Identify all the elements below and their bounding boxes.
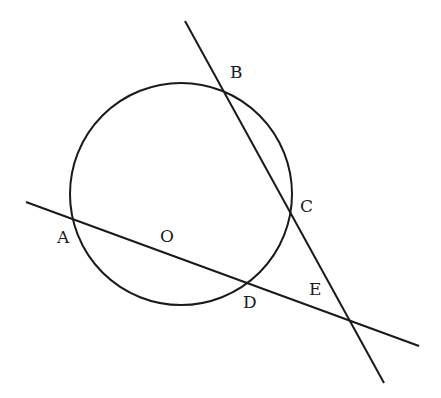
label-a: A	[57, 229, 69, 246]
label-d: D	[243, 294, 257, 311]
line-through-a-o-d	[26, 202, 419, 346]
label-o: O	[160, 228, 174, 245]
label-b: B	[230, 64, 243, 81]
line-through-b-c	[185, 21, 384, 383]
label-c: C	[300, 198, 313, 215]
geometry-diagram	[0, 0, 441, 398]
circle-o	[70, 83, 292, 305]
label-e: E	[309, 281, 321, 298]
